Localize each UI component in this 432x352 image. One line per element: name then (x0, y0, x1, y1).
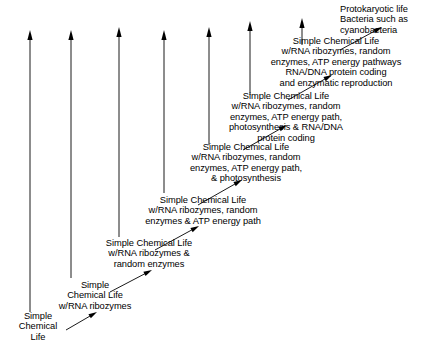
stage-6-label: Simple Chemical Life w/RNA ribozymes, ra… (207, 91, 365, 143)
stage-4-label: Simple Chemical Life w/RNA ribozymes, ra… (127, 195, 279, 226)
stage-8-label: Protokaryotic life Bacteria such as cyan… (340, 4, 430, 35)
stage-1-label: Simple Chemical Life (10, 311, 66, 342)
diagram-canvas: Simple Chemical LifeSimple Chemical Life… (0, 0, 432, 352)
time-arrow-2 (68, 30, 73, 278)
stage-3-label: Simple Chemical Life w/RNA ribozymes & r… (85, 238, 213, 269)
time-arrow-3 (116, 27, 121, 237)
stage-7-label: Simple Chemical Life w/RNA ribozymes, ra… (250, 36, 422, 88)
time-arrow-1 (27, 30, 32, 312)
stage-2-label: Simple Chemical Life w/RNA ribozymes (42, 280, 148, 311)
time-arrow-4 (161, 30, 166, 193)
transition-arrow-1 (66, 312, 97, 330)
stage-5-label: Simple Chemical Life w/RNA ribozymes, ra… (170, 142, 322, 184)
